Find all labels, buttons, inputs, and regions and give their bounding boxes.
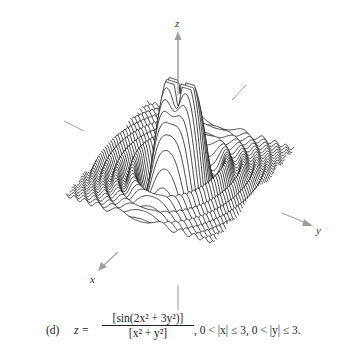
figure-caption: (d) z = [sin(2x² + 3y²)] [x² + y²] , 0 <…: [46, 312, 346, 352]
surface-mesh: [66, 78, 294, 311]
caption-lhs: z =: [74, 324, 89, 336]
x-axis-label: x: [90, 273, 95, 285]
surface-plot: [0, 0, 347, 310]
caption-domain: , 0 < |x| ≤ 3, 0 < |y| ≤ 3.: [194, 324, 301, 336]
caption-tag: (d): [46, 324, 59, 336]
y-arrow-icon: [302, 219, 313, 226]
caption-denominator: [x² + y²]: [102, 326, 194, 339]
z-axis-label: z: [175, 17, 179, 29]
y-axis-back-line: [232, 85, 246, 100]
caption-fraction: [sin(2x² + 3y²)] [x² + y²]: [102, 312, 194, 339]
x-axis-back-line: [64, 121, 84, 131]
y-axis-label: y: [316, 224, 321, 236]
caption-numerator: [sin(2x² + 3y²)]: [102, 312, 194, 326]
z-arrow-icon: [175, 31, 182, 40]
